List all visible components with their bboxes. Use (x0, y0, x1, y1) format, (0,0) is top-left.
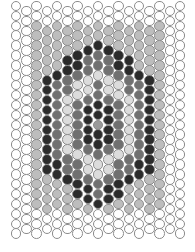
bead-pale (62, 95, 73, 106)
bead-white (21, 95, 32, 106)
bead-white (62, 16, 73, 27)
bead-white (11, 199, 22, 210)
bead-light (134, 189, 145, 200)
bead-light (144, 174, 155, 185)
bead-white (21, 85, 32, 96)
bead-light (31, 110, 42, 121)
bead-light (134, 179, 145, 190)
bead-white (134, 228, 145, 239)
bead-mid (113, 169, 124, 180)
bead-white (11, 70, 22, 81)
bead-white (83, 224, 94, 235)
bead-dark (144, 115, 155, 126)
bead-white (175, 199, 186, 210)
bead-light (144, 184, 155, 195)
bead-white (165, 6, 176, 17)
bead-mid (134, 80, 145, 91)
bead-white (154, 228, 165, 239)
bead-white (21, 214, 32, 225)
bead-pale (83, 75, 94, 86)
bead-light (62, 204, 73, 215)
bead-dark (52, 70, 63, 81)
bead-dark (72, 179, 83, 190)
bead-light (52, 199, 63, 210)
bead-light (154, 189, 165, 200)
bead-white (144, 224, 155, 235)
bead-mid (62, 75, 73, 86)
bead-dark (42, 85, 53, 96)
bead-dark (93, 110, 104, 121)
bead-dark (144, 85, 155, 96)
bead-dark (83, 194, 94, 205)
bead-white (103, 16, 114, 27)
bead-pale (93, 169, 104, 180)
bead-white (124, 214, 135, 225)
bead-light (154, 199, 165, 210)
bead-white (175, 100, 186, 111)
bead-white (154, 11, 165, 22)
bead-pale (103, 85, 114, 96)
bead-white (31, 209, 42, 220)
bead-dark (83, 105, 94, 116)
bead-white (11, 209, 22, 220)
bead-light (124, 184, 135, 195)
bead-dark (103, 184, 114, 195)
bead-white (134, 209, 145, 220)
bead-mid (52, 110, 63, 121)
bead-dark (83, 184, 94, 195)
bead-white (165, 95, 176, 106)
bead-pale (113, 80, 124, 91)
bead-white (11, 100, 22, 111)
bead-white (124, 6, 135, 17)
bead-white (113, 1, 124, 12)
bead-white (21, 194, 32, 205)
bead-white (175, 110, 186, 121)
bead-dark (72, 189, 83, 200)
bead-dark (134, 169, 145, 180)
bead-white (72, 209, 83, 220)
bead-dark (42, 75, 53, 86)
bead-white (165, 214, 176, 225)
bead-mid (83, 174, 94, 185)
bead-white (175, 1, 186, 12)
bead-light (52, 189, 63, 200)
bead-mid (113, 110, 124, 121)
bead-light (154, 70, 165, 81)
bead-dark (144, 105, 155, 116)
bead-dark (52, 169, 63, 180)
bead-white (175, 189, 186, 200)
bead-white (134, 11, 145, 22)
bead-white (62, 224, 73, 235)
bead-mid (113, 100, 124, 111)
bead-white (83, 6, 94, 17)
bead-pale (93, 70, 104, 81)
bead-white (165, 184, 176, 195)
bead-white (175, 169, 186, 180)
bead-white (175, 90, 186, 101)
bead-white (42, 224, 53, 235)
bead-white (165, 174, 176, 185)
bead-pale (113, 90, 124, 101)
bead-white (72, 11, 83, 22)
bead-light (144, 204, 155, 215)
bead-white (93, 1, 104, 12)
bead-white (31, 228, 42, 239)
bead-dark (42, 105, 53, 116)
bead-white (21, 115, 32, 126)
bead-white (103, 214, 114, 225)
bead-white (72, 228, 83, 239)
bead-white (113, 209, 124, 220)
bead-mid (83, 95, 94, 106)
bead-light (83, 204, 94, 215)
bead-mid (93, 80, 104, 91)
bead-light (154, 100, 165, 111)
bead-white (11, 90, 22, 101)
bead-pale (72, 80, 83, 91)
bead-white (11, 189, 22, 200)
bead-mid (52, 90, 63, 101)
bead-dark (124, 174, 135, 185)
bead-dark (93, 100, 104, 111)
bead-white (31, 11, 42, 22)
bead-white (144, 214, 155, 225)
bead-dark (62, 174, 73, 185)
